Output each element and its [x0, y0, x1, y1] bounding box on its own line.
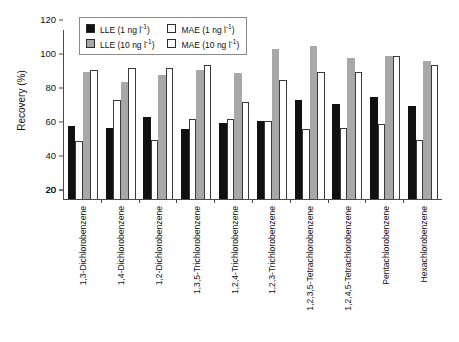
x-label-cell: 1,2,4-Trichlorobenzene: [216, 206, 254, 338]
x-axis-tick-label: 1,2,3,5-Tetrachlorobenzene: [305, 206, 315, 311]
bar: [113, 100, 121, 199]
bar: [204, 65, 212, 199]
bar-group: [329, 30, 367, 199]
x-label-cell: 1,2-Dichlorobenzene: [140, 206, 178, 338]
chart-legend: LLE (1 ng l-1) MAE (1 ng l-1) LLE (10 ng…: [79, 17, 247, 55]
x-axis-tick-label: 1,4-Dichlorobenzene: [116, 206, 126, 285]
chart-figure: LLE (1 ng l-1) MAE (1 ng l-1) LLE (10 ng…: [0, 0, 459, 342]
legend-entry-lle-10: LLE (10 ng l-1): [86, 37, 154, 50]
legend-entry-lle-1: LLE (1 ng l-1): [86, 22, 154, 35]
x-label-cell: 1,3-Dichlorobenzene: [64, 206, 102, 338]
legend-swatch-white-icon: [167, 24, 176, 33]
legend-entry-mae-10: MAE (10 ng l-1): [167, 37, 239, 50]
bar: [106, 128, 114, 199]
x-axis-tick-label: 1,3,5-Trichlorobenzene: [192, 206, 202, 294]
bar-group: [291, 30, 329, 199]
bar: [302, 129, 310, 199]
y-tick-80: 80: [45, 82, 63, 93]
bar-groups: [64, 30, 442, 199]
bar: [219, 123, 227, 200]
bar: [196, 70, 204, 199]
bar-group: [253, 30, 291, 199]
bar: [431, 65, 439, 199]
x-label-cell: 1,2,3-Trichlorobenzene: [254, 206, 292, 338]
bar: [355, 72, 363, 200]
bar: [158, 75, 166, 199]
x-axis-tick-label: 1,2-Dichlorobenzene: [154, 206, 164, 285]
legend-label-lle-10: LLE (10 ng l-1): [100, 37, 154, 50]
bar: [257, 121, 265, 199]
bar: [90, 70, 98, 199]
bar-group: [140, 30, 178, 199]
legend-label-mae-10: MAE (10 ng l-1): [181, 37, 239, 50]
bar-group: [366, 30, 404, 199]
bar: [68, 126, 76, 199]
x-axis-tick-label: Hexachlorobenzene: [419, 206, 429, 282]
x-axis-tick-label: 1,3-Dichlorobenzene: [78, 206, 88, 285]
bar: [75, 141, 83, 199]
bar: [310, 46, 318, 199]
y-axis-label: Recovery (%): [16, 36, 27, 166]
x-tick-mark: [139, 199, 140, 203]
x-tick-mark: [328, 199, 329, 203]
bar: [264, 121, 272, 199]
bar: [295, 100, 303, 199]
bar: [378, 124, 386, 199]
x-tick-mark: [252, 199, 253, 203]
bar: [151, 140, 159, 200]
x-label-cell: 1,2,4,5-Tetrachlorobenzene: [329, 206, 367, 338]
bar: [385, 56, 393, 199]
bar: [166, 68, 174, 199]
bar-group: [215, 30, 253, 199]
bar-group: [404, 30, 442, 199]
legend-entry-mae-1: MAE (1 ng l-1): [167, 22, 239, 35]
bar-group: [102, 30, 140, 199]
bar: [227, 119, 235, 199]
x-tick-mark: [176, 199, 177, 203]
bar: [416, 140, 424, 200]
x-axis-tick-label: 1,2,3-Trichlorobenzene: [267, 206, 277, 294]
bar: [332, 104, 340, 199]
x-label-cell: 1,4-Dichlorobenzene: [102, 206, 140, 338]
bar: [143, 117, 151, 199]
bar: [181, 129, 189, 199]
x-axis-tick-label: Pentachlorobenzene: [381, 206, 391, 285]
x-axis-labels: 1,3-Dichlorobenzene1,4-Dichlorobenzene1,…: [64, 206, 443, 338]
x-tick-mark: [101, 199, 102, 203]
bar: [234, 73, 242, 199]
bar: [370, 97, 378, 199]
bar: [340, 128, 348, 199]
x-label-cell: Pentachlorobenzene: [367, 206, 405, 338]
bar: [189, 119, 197, 199]
y-tick-60: 60: [45, 116, 63, 127]
legend-label-lle-1: LLE (1 ng l-1): [100, 22, 150, 35]
x-axis-tick-label: 1,2,4,5-Tetrachlorobenzene: [343, 206, 353, 311]
legend-label-mae-1: MAE (1 ng l-1): [181, 22, 234, 35]
bar: [128, 68, 136, 199]
x-label-cell: 1,3,5-Trichlorobenzene: [178, 206, 216, 338]
bar: [272, 49, 280, 199]
x-label-cell: 1,2,3,5-Tetrachlorobenzene: [291, 206, 329, 338]
legend-swatch-white-icon: [167, 39, 176, 48]
bar: [121, 82, 129, 199]
bar: [408, 106, 416, 200]
y-tick-120: 120: [40, 14, 63, 25]
bar: [423, 61, 431, 199]
bar: [279, 80, 287, 199]
x-label-cell: Hexachlorobenzene: [405, 206, 443, 338]
y-tick-100: 100: [40, 48, 63, 59]
x-tick-mark: [365, 199, 366, 203]
bar: [242, 102, 250, 199]
x-axis-tick-label: 1,2,4-Trichlorobenzene: [230, 206, 240, 294]
legend-swatch-black-icon: [86, 24, 95, 33]
bar: [83, 72, 91, 200]
legend-swatch-gray-icon: [86, 39, 95, 48]
x-tick-mark: [214, 199, 215, 203]
x-tick-mark: [290, 199, 291, 203]
bar-group: [64, 30, 102, 199]
x-tick-mark: [403, 199, 404, 203]
plot-area: 1201008060402020: [63, 30, 442, 200]
y-tick-40: 40: [45, 150, 63, 161]
y-tick-20: 20: [45, 184, 63, 195]
bar: [393, 56, 401, 199]
